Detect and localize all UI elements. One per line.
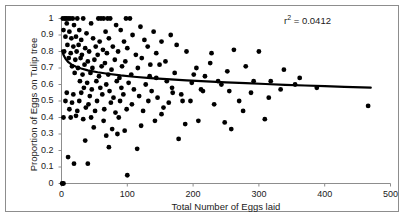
x-tick-label: 300 — [244, 190, 274, 199]
data-point — [142, 38, 147, 43]
data-point — [159, 112, 164, 117]
data-point — [139, 56, 144, 61]
data-point — [257, 49, 262, 54]
data-point — [63, 34, 68, 39]
data-point — [91, 36, 96, 41]
data-point — [110, 44, 115, 49]
data-point — [266, 95, 271, 100]
data-point — [262, 117, 267, 122]
data-point — [243, 64, 248, 69]
data-point — [237, 99, 242, 104]
data-point — [170, 90, 175, 95]
data-point — [84, 31, 89, 36]
data-point — [77, 99, 82, 104]
data-point — [74, 49, 79, 54]
data-point — [110, 127, 115, 132]
data-point — [168, 33, 173, 38]
data-point — [106, 36, 111, 41]
data-point — [124, 107, 129, 112]
x-tick-label: 0 — [47, 190, 77, 199]
data-point — [108, 16, 113, 21]
data-point — [163, 59, 168, 64]
data-point — [85, 161, 90, 166]
data-point — [278, 87, 283, 92]
data-point — [201, 89, 206, 94]
data-point — [149, 89, 154, 94]
data-point — [69, 36, 74, 41]
data-point — [126, 80, 131, 85]
data-point — [61, 28, 66, 33]
data-point — [146, 99, 151, 104]
data-point — [180, 99, 185, 104]
data-point — [74, 113, 79, 118]
data-point — [70, 16, 75, 21]
data-point — [67, 29, 72, 34]
data-point — [91, 125, 96, 130]
x-tick-label: 200 — [178, 190, 208, 199]
data-point — [116, 49, 121, 54]
data-point — [135, 66, 140, 71]
data-point — [99, 64, 104, 69]
data-point — [63, 99, 68, 104]
data-point — [101, 118, 106, 123]
data-point — [194, 66, 199, 71]
data-point — [94, 79, 99, 84]
scatter-plot-figure: 00.10.20.30.40.50.60.70.80.91 0100200300… — [0, 0, 407, 224]
data-point — [121, 92, 126, 97]
data-point — [133, 52, 138, 57]
x-tick-label: 500 — [376, 190, 406, 199]
data-point — [73, 57, 78, 62]
data-point — [203, 74, 208, 79]
data-point — [159, 39, 164, 44]
data-point — [115, 132, 120, 137]
data-point — [61, 181, 66, 186]
data-point — [83, 138, 88, 143]
data-point — [122, 128, 127, 133]
data-point — [222, 120, 227, 125]
data-point — [100, 92, 105, 97]
data-point — [87, 94, 92, 99]
data-point — [249, 90, 254, 95]
data-point — [172, 71, 177, 76]
data-point — [225, 69, 230, 74]
data-point — [75, 16, 80, 21]
data-point — [79, 90, 84, 95]
data-point — [72, 71, 77, 76]
data-point — [268, 79, 273, 84]
data-point — [72, 23, 77, 28]
data-point — [89, 21, 94, 26]
data-point — [93, 44, 98, 49]
data-point — [68, 115, 73, 120]
data-point — [77, 28, 82, 33]
data-point — [75, 109, 80, 114]
data-point — [196, 118, 201, 123]
data-point — [208, 61, 213, 66]
data-point — [241, 109, 246, 114]
data-point — [125, 173, 130, 178]
data-point — [92, 57, 97, 62]
data-point — [93, 109, 98, 114]
data-point — [66, 155, 71, 160]
data-point — [118, 28, 123, 33]
data-point — [68, 51, 73, 56]
data-point — [179, 92, 184, 97]
data-point — [70, 100, 75, 105]
data-point — [184, 49, 189, 54]
data-point — [71, 44, 76, 49]
data-point — [114, 23, 119, 28]
data-point — [98, 85, 103, 90]
data-point — [109, 67, 114, 72]
data-point — [85, 80, 90, 85]
data-point — [118, 99, 123, 104]
data-point — [95, 52, 100, 57]
data-point — [154, 51, 159, 56]
data-point — [71, 92, 76, 97]
tick-marks — [59, 19, 391, 187]
data-point — [76, 43, 81, 48]
data-point — [104, 82, 109, 87]
data-point — [143, 82, 148, 87]
data-point — [89, 87, 94, 92]
data-point — [139, 123, 144, 128]
data-point — [64, 90, 69, 95]
data-point — [111, 95, 116, 100]
